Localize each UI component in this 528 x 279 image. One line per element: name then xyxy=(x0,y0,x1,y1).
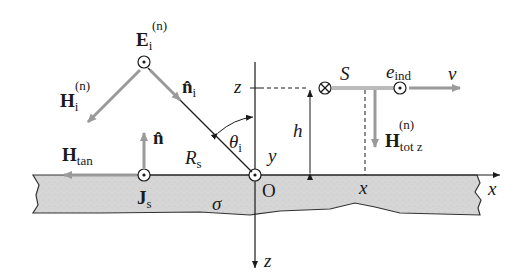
e-ind-label: eind xyxy=(386,61,412,83)
z-axis-top-label: z xyxy=(233,76,242,97)
n-i-arrow xyxy=(150,70,180,100)
H-tot-z-label: Htot z(n) xyxy=(385,117,423,154)
S-label: S xyxy=(340,63,350,84)
x-axis-label: x xyxy=(487,178,497,199)
n-normal-label: n̂ xyxy=(153,127,164,148)
R-s-label: Rs xyxy=(184,147,202,171)
velocity-label: v xyxy=(448,63,457,84)
theta-i-label: θi xyxy=(229,131,242,155)
h-label: h xyxy=(293,120,303,141)
em-diagram: x z z h S eind v x Htot z(n) O y n̂i θi … xyxy=(0,0,528,279)
n-i-label: n̂i xyxy=(182,76,197,100)
H-i-arrow xyxy=(88,70,140,122)
origin-label: O xyxy=(262,180,276,201)
H-tan-label: Htan xyxy=(62,144,93,168)
sigma-label: σ xyxy=(212,193,222,214)
x-position-label: x xyxy=(358,177,368,198)
H-i-label: Hi(n) xyxy=(60,78,90,114)
y-axis-label: y xyxy=(266,145,277,166)
z-axis-bottom-label: z xyxy=(263,250,272,271)
E-i-label: Ei(n) xyxy=(136,18,167,53)
